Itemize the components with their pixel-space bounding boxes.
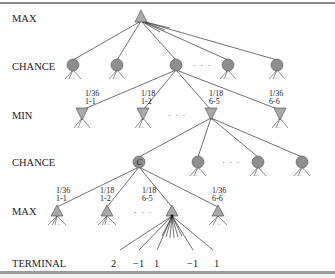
diagram-frame: MAX CHANCE MIN CHANCE MAX TERMINAL: [0, 0, 335, 278]
edges-chance-to-max: [57, 167, 218, 207]
subtree-ellipsis: ...: [79, 124, 83, 129]
row-label-chance-1: CHANCE: [12, 61, 55, 72]
max-root-node: [135, 10, 147, 22]
terminal-values: 2 −1 1 −1 1: [111, 258, 219, 269]
max-node: ...: [48, 205, 66, 226]
edges-max-to-terminal: [120, 216, 213, 250]
branch-roll: 1-2: [141, 97, 152, 106]
max-node: ...: [98, 205, 116, 226]
max-node-expanded: [166, 205, 178, 217]
subtree-ellipsis: ...: [255, 172, 259, 177]
min-node: ...: [74, 108, 90, 129]
ellipsis: · · ·: [193, 60, 212, 70]
chance-node-c: C: [133, 156, 145, 168]
chance-node: ...: [294, 156, 310, 177]
subtree-ellipsis: ...: [299, 172, 303, 177]
branch-roll: 6-5: [209, 97, 220, 106]
chance-node: ...: [190, 156, 206, 177]
subtree-ellipsis: ...: [140, 124, 144, 129]
chance-node: ...: [65, 59, 81, 80]
min-node: ...: [272, 108, 288, 129]
row-label-chance-2: CHANCE: [12, 157, 55, 168]
subtree-ellipsis: ...: [70, 75, 74, 80]
ellipsis: · · ·: [134, 207, 153, 217]
subtree-ellipsis: ...: [107, 221, 111, 226]
game-tree-diagram: MAX CHANCE MIN CHANCE MAX TERMINAL: [0, 0, 335, 278]
min-branch-labels: 1/36 1-1 1/18 1-2 1/18 6-5 1/36 6-6: [85, 89, 283, 106]
row-label-terminal: TERMINAL: [12, 258, 66, 269]
min-node: ...: [135, 108, 151, 129]
chance-row-1: ... ... · · · ... ...: [65, 59, 285, 80]
branch-roll: 1-2: [100, 194, 111, 203]
branch-roll: 6-6: [269, 97, 280, 106]
terminal-value: 1: [214, 258, 219, 269]
chance-node-label: C: [137, 158, 143, 167]
max-branch-labels: 1/36 1-1 1/18 1-2 1/18 6-5 1/36 6-6: [56, 186, 226, 203]
branch-roll: 1-1: [85, 97, 96, 106]
chance-node-expanded: [170, 59, 182, 71]
chance-row-2: C ... · · · ... ...: [133, 156, 310, 177]
min-row: ... ... · · · ...: [74, 108, 288, 129]
branch-roll: 6-6: [212, 194, 223, 203]
subtree-ellipsis: ...: [114, 75, 118, 80]
ellipsis: · · ·: [168, 110, 187, 120]
ellipsis: · · ·: [222, 157, 241, 167]
row-label-min: MIN: [12, 110, 33, 121]
branch-roll: 6-5: [142, 194, 153, 203]
row-label-max-2: MAX: [12, 206, 37, 217]
terminal-value: 2: [111, 258, 116, 269]
terminal-value: −1: [133, 258, 144, 269]
terminal-value: −1: [187, 258, 198, 269]
subtree-ellipsis: ...: [195, 172, 199, 177]
chance-node: ...: [109, 59, 125, 80]
chance-node: ...: [250, 156, 266, 177]
subtree-ellipsis: ...: [277, 124, 281, 129]
chance-node: ...: [220, 59, 236, 80]
subtree-ellipsis: ...: [225, 75, 229, 80]
subtree-ellipsis: ...: [57, 221, 61, 226]
min-node-expanded: [205, 108, 217, 120]
branch-roll: 1-1: [56, 194, 67, 203]
max-row-2: ... ... · · · ...: [48, 205, 227, 226]
chance-node: ...: [269, 59, 285, 80]
edges-root-to-chance: [73, 21, 277, 60]
row-label-max-1: MAX: [12, 13, 37, 24]
max-node: ...: [209, 205, 227, 226]
subtree-ellipsis: ...: [274, 75, 278, 80]
subtree-ellipsis: ...: [217, 221, 221, 226]
terminal-value: 1: [154, 258, 159, 269]
